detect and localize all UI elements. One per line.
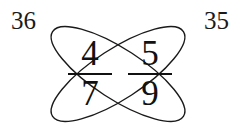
fraction-right-numerator: 5 [122, 36, 178, 72]
cross-product-label-left: 36 [11, 8, 36, 33]
fraction-left-numerator: 4 [62, 36, 118, 72]
fraction-right: 5 9 [122, 36, 178, 112]
figure-canvas: 36 35 4 7 5 9 [0, 0, 235, 137]
fraction-left: 4 7 [62, 36, 118, 112]
fraction-right-denominator: 9 [122, 76, 178, 112]
fraction-left-denominator: 7 [62, 76, 118, 112]
cross-product-label-right: 35 [204, 8, 229, 33]
